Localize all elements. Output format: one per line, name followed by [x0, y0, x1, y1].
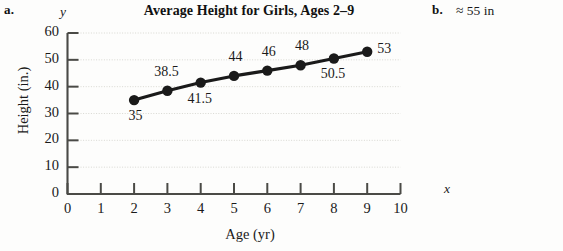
x-tick-label: 3: [156, 200, 178, 217]
y-tick-label: 60: [31, 23, 59, 40]
data-point-label: 53: [377, 41, 391, 57]
data-point-label: 41.5: [188, 91, 213, 107]
worksheet-page: a. b. ≈ 55 in Average Height for Girls, …: [0, 0, 563, 251]
y-tick-label: 30: [31, 104, 59, 121]
data-point-label: 35: [129, 108, 143, 124]
data-point-label: 50.5: [321, 66, 346, 82]
data-point-label: 38.5: [154, 64, 179, 80]
x-tick-label: 8: [323, 200, 345, 217]
x-tick-label: 0: [57, 200, 79, 217]
plot-area: [0, 0, 563, 251]
y-tick-label: 50: [31, 50, 59, 67]
line-chart: Average Height for Girls, Ages 2–9 y x H…: [0, 0, 563, 251]
y-tick-label: 20: [31, 130, 59, 147]
x-tick-label: 6: [256, 200, 278, 217]
y-tick-label: 40: [31, 77, 59, 94]
y-tick-label: 10: [31, 157, 59, 174]
x-axis-ticks: [68, 183, 401, 194]
y-axis-ticks: [68, 33, 79, 194]
x-tick-label: 7: [290, 200, 312, 217]
x-tick-label: 1: [90, 200, 112, 217]
x-tick-label: 4: [190, 200, 212, 217]
x-tick-label: 9: [356, 200, 378, 217]
data-point-label: 46: [262, 44, 276, 60]
x-tick-label: 10: [390, 200, 412, 217]
x-tick-label: 5: [223, 200, 245, 217]
data-point-label: 44: [228, 49, 242, 65]
x-tick-label: 2: [123, 200, 145, 217]
data-point-label: 48: [295, 38, 309, 54]
y-tick-label: 0: [31, 184, 59, 201]
